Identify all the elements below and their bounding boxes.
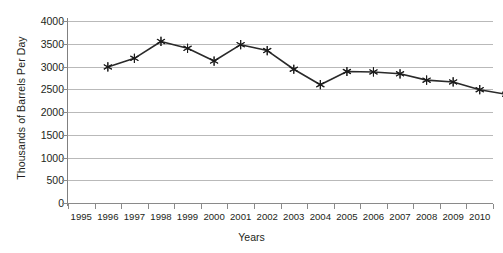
y-tick-label: 3000 xyxy=(22,62,64,72)
data-point-marker xyxy=(316,80,324,89)
series-markers xyxy=(104,37,503,99)
x-tick-mark xyxy=(440,204,441,209)
y-tick-mark xyxy=(62,112,68,113)
x-tick-mark xyxy=(413,204,414,209)
y-axis-tick-labels: 40003500300025002000150010005000 xyxy=(22,14,64,210)
x-tick-mark xyxy=(254,204,255,209)
series-line xyxy=(108,41,503,94)
x-tick-mark xyxy=(174,204,175,209)
y-tick-label: 1000 xyxy=(22,153,64,163)
y-tick-mark xyxy=(62,21,68,22)
x-tick-mark xyxy=(201,204,202,209)
x-tick-mark xyxy=(387,204,388,209)
line-chart: Thousands of Barrels Per Day 40003500300… xyxy=(0,0,503,253)
x-tick-mark xyxy=(121,204,122,209)
series-crude-oil-production xyxy=(68,21,493,203)
y-tick-mark xyxy=(62,44,68,45)
y-tick-label: 0 xyxy=(22,198,64,208)
x-tick-mark xyxy=(466,204,467,209)
x-tick-mark xyxy=(493,204,494,209)
y-tick-label: 3500 xyxy=(22,39,64,49)
y-tick-label: 2000 xyxy=(22,107,64,117)
x-tick-mark xyxy=(227,204,228,209)
chart-title xyxy=(0,1,503,11)
y-tick-mark xyxy=(62,158,68,159)
y-tick-label: 1500 xyxy=(22,130,64,140)
y-tick-label: 500 xyxy=(22,175,64,185)
y-tick-label: 2500 xyxy=(22,84,64,94)
x-tick-mark xyxy=(360,204,361,209)
y-tick-mark xyxy=(62,180,68,181)
data-point-marker xyxy=(104,62,112,71)
y-tick-mark xyxy=(62,67,68,68)
x-axis-title: Years xyxy=(0,231,503,243)
y-tick-label: 4000 xyxy=(22,16,64,26)
x-tick-mark xyxy=(95,204,96,209)
plot-area xyxy=(68,21,493,203)
data-point-marker xyxy=(210,56,218,65)
x-tick-mark xyxy=(307,204,308,209)
y-tick-mark xyxy=(62,89,68,90)
data-point-marker xyxy=(290,65,298,74)
x-tick-label: 2010 xyxy=(460,211,500,223)
x-tick-mark xyxy=(148,204,149,209)
data-point-marker xyxy=(130,54,138,63)
x-axis-tick-labels: 1995199619971998199920002001200220032004… xyxy=(0,211,503,225)
x-tick-mark xyxy=(334,204,335,209)
x-tick-mark xyxy=(68,204,69,209)
y-tick-mark xyxy=(62,135,68,136)
x-tick-mark xyxy=(281,204,282,209)
